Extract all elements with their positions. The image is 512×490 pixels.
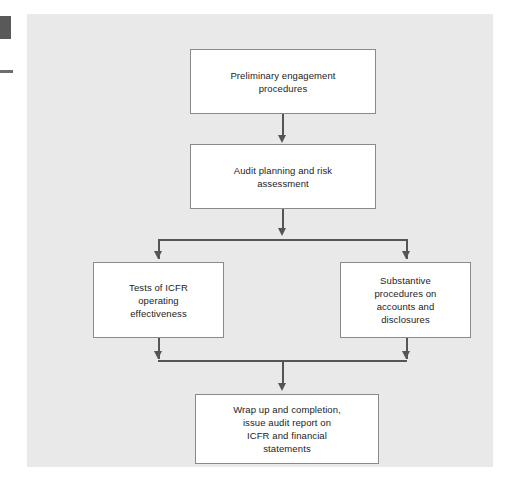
flow-node-preliminary-engagement-text: Preliminary engagement procedures <box>230 69 335 95</box>
arrowhead-icfr-tests-to-merge-icon <box>154 351 162 359</box>
flow-node-wrap-up-completion-line-2: issue audit report on <box>233 416 341 429</box>
flow-node-icfr-operating-effectiveness-line-3: effectiveness <box>129 307 188 320</box>
connector-split-bar <box>158 239 407 241</box>
flow-node-preliminary-engagement-line-1: Preliminary engagement <box>230 69 335 82</box>
flow-node-preliminary-engagement: Preliminary engagement procedures <box>190 49 376 114</box>
flow-node-wrap-up-completion-text: Wrap up and completion, issue audit repo… <box>233 403 341 455</box>
flow-node-wrap-up-completion: Wrap up and completion, issue audit repo… <box>195 394 379 464</box>
flow-node-preliminary-engagement-line-2: procedures <box>230 82 335 95</box>
flowchart-figure-panel: Preliminary engagement procedures Audit … <box>27 14 493 467</box>
flow-node-icfr-operating-effectiveness: Tests of ICFR operating effectiveness <box>93 262 224 338</box>
flow-node-substantive-procedures-line-1: Substantive <box>374 274 436 287</box>
flow-node-substantive-procedures-line-3: accounts and <box>374 300 436 313</box>
flow-node-icfr-operating-effectiveness-line-1: Tests of ICFR <box>129 281 188 294</box>
flow-node-audit-planning-line-2: assessment <box>234 177 332 190</box>
arrowhead-split-to-icfr-tests-icon <box>154 251 162 259</box>
flow-node-wrap-up-completion-line-1: Wrap up and completion, <box>233 403 341 416</box>
connector-merge-to-wrap-up <box>282 360 284 385</box>
arrowhead-preliminary-to-planning-icon <box>278 135 286 143</box>
flow-node-icfr-operating-effectiveness-line-2: operating <box>129 294 188 307</box>
flow-node-audit-planning-line-1: Audit planning and risk <box>234 164 332 177</box>
page-margin-rule-mark <box>0 70 13 73</box>
flow-node-substantive-procedures-line-4: disclosures <box>374 313 436 326</box>
flow-node-substantive-procedures-line-2: procedures on <box>374 287 436 300</box>
connector-planning-to-split <box>282 209 284 230</box>
flow-node-audit-planning-text: Audit planning and risk assessment <box>234 164 332 190</box>
page-margin-block-mark <box>0 16 11 39</box>
arrowhead-planning-to-split-icon <box>278 228 286 236</box>
connector-preliminary-to-planning <box>282 114 284 136</box>
flow-node-wrap-up-completion-line-3: ICFR and financial <box>233 429 341 442</box>
flow-node-audit-planning: Audit planning and risk assessment <box>190 144 376 209</box>
flow-node-wrap-up-completion-line-4: statements <box>233 442 341 455</box>
flow-node-icfr-operating-effectiveness-text: Tests of ICFR operating effectiveness <box>129 281 188 320</box>
arrowhead-split-to-substantive-icon <box>402 251 410 259</box>
flow-node-substantive-procedures: Substantive procedures on accounts and d… <box>340 262 471 338</box>
flow-node-substantive-procedures-text: Substantive procedures on accounts and d… <box>374 274 436 326</box>
arrowhead-merge-to-wrap-up-icon <box>278 383 286 391</box>
arrowhead-substantive-to-merge-icon <box>402 351 410 359</box>
